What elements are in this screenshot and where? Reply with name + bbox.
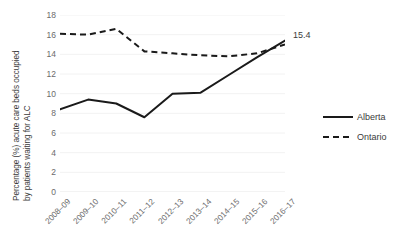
- x-axis-tick-label: 2011–12: [128, 197, 156, 225]
- legend-swatch-solid-icon: [323, 112, 353, 122]
- x-axis-tick-label: 2010–11: [100, 197, 128, 225]
- data-label-alberta-endpoint: 15.4: [293, 30, 311, 40]
- x-axis-tick-label: 2012–13: [156, 197, 185, 226]
- x-axis-tick-label: 2008–09: [43, 197, 72, 226]
- x-axis-tick-label: 2014–15: [212, 197, 241, 226]
- x-axis-tick-label: 2009–10: [72, 197, 101, 226]
- legend-label-ontario: Ontario: [357, 132, 387, 142]
- chart-legend: Alberta Ontario: [323, 107, 395, 147]
- legend-item-ontario[interactable]: Ontario: [323, 127, 395, 147]
- legend-item-alberta[interactable]: Alberta: [323, 107, 395, 127]
- x-axis-tick-label: 2013–14: [184, 197, 213, 226]
- legend-swatch-dashed-icon: [323, 132, 353, 142]
- legend-label-alberta: Alberta: [357, 112, 386, 122]
- line-chart: Percentage (%) acute care beds occupied …: [0, 0, 398, 249]
- x-axis-tick-label: 2015–16: [240, 197, 269, 226]
- x-axis-tick-label: 2016–17: [268, 197, 297, 226]
